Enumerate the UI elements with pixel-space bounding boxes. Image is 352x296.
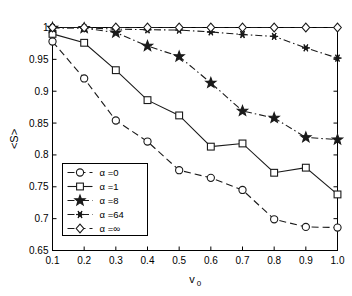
x-tick-label: 0.8 [267, 255, 281, 266]
legend-label-alpha-1: α =1 [100, 181, 119, 192]
x-tick-label: 0.9 [299, 255, 313, 266]
marker-square [207, 143, 214, 150]
legend-label-alpha-8: α =8 [100, 195, 119, 206]
marker-square [302, 164, 309, 171]
line-chart: 0.650.70.750.80.850.90.951 0.10.20.30.40… [0, 0, 352, 296]
y-tick-label: 0.7 [35, 213, 49, 224]
marker-circle [334, 224, 341, 231]
x-tick-label: 0.7 [236, 255, 250, 266]
marker-square [176, 112, 183, 119]
x-tick-label: 0.1 [46, 255, 60, 266]
x-tick-label: 0.6 [204, 255, 218, 266]
marker-square [271, 169, 278, 176]
x-tick-label: 0.2 [77, 255, 91, 266]
y-tick-label: 0.8 [35, 149, 49, 160]
marker-circle [302, 223, 309, 230]
x-axis-title-main: v [189, 273, 195, 285]
y-tick-label: 0.95 [29, 54, 49, 65]
x-tick-label: 1.0 [331, 255, 345, 266]
x-tick-label: 0.3 [109, 255, 123, 266]
marker-square [81, 39, 88, 46]
marker-circle [81, 75, 88, 82]
x-tick-label: 0.4 [141, 255, 155, 266]
legend-marker-square [77, 183, 84, 190]
chart-figure: 0.650.70.750.80.850.90.951 0.10.20.30.40… [0, 0, 352, 296]
legend-label-alpha-0: α =0 [100, 167, 119, 178]
marker-circle [207, 174, 214, 181]
marker-circle [112, 117, 119, 124]
y-tick-label: 0.75 [29, 181, 49, 192]
marker-circle [144, 138, 151, 145]
marker-square [144, 97, 151, 104]
marker-circle [49, 38, 56, 45]
x-tick-label: 0.5 [172, 255, 186, 266]
marker-circle [239, 186, 246, 193]
marker-circle [271, 216, 278, 223]
marker-circle [176, 167, 183, 174]
y-tick-label: 0.9 [35, 86, 49, 97]
chart-legend: α =0α =1α =8α =64α =∞ [63, 164, 148, 236]
legend-label-alpha-inf: α =∞ [100, 223, 121, 234]
y-axis-title: <S> [8, 129, 20, 149]
marker-square [112, 67, 119, 74]
marker-square [239, 140, 246, 147]
legend-marker-circle [76, 169, 83, 176]
legend-label-alpha-64: α =64 [100, 209, 124, 220]
y-tick-label: 0.85 [29, 118, 49, 129]
marker-square [334, 191, 341, 198]
x-axis-title-subscript: 0 [197, 279, 202, 288]
